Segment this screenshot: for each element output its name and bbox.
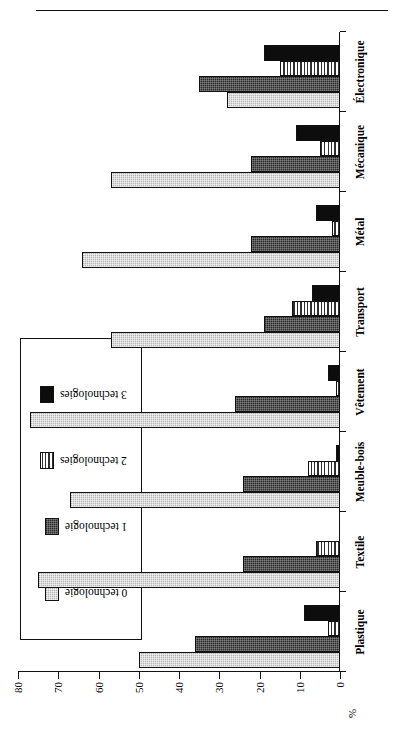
bar-1: [251, 156, 340, 172]
value-axis-tick: [18, 672, 19, 679]
category-axis-tick: [340, 351, 346, 352]
bar-group: Vêtement: [18, 352, 340, 432]
value-axis-tick-label: 60: [93, 682, 104, 712]
bar-3: [264, 45, 340, 61]
category-label: Mécanique: [354, 125, 366, 179]
bar-1: [199, 76, 340, 92]
bar-group: Plastique: [18, 592, 340, 672]
category-axis-tick: [340, 591, 346, 592]
value-axis-tick-label: 70: [53, 682, 64, 712]
value-axis-tick: [58, 672, 59, 679]
bar-group: Textile: [18, 512, 340, 592]
bar-1: [243, 476, 340, 492]
bar-group: Électronique: [18, 32, 340, 112]
category-axis-tick: [340, 31, 346, 32]
bar-1: [235, 396, 340, 412]
bar-3: [316, 205, 340, 221]
bar-2: [336, 381, 340, 397]
bar-2: [328, 621, 340, 637]
bar-2: [332, 221, 340, 237]
figure-stage: 0 technologie 1 technologie 2 technologi…: [0, 16, 398, 736]
category-axis-tick: [340, 111, 346, 112]
value-axis-tick: [260, 672, 261, 679]
category-axis-tick: [340, 511, 346, 512]
category-axis-tick: [340, 191, 346, 192]
bar-0: [111, 172, 340, 188]
rotated-figure-wrapper: 0 technologie 1 technologie 2 technologi…: [0, 16, 398, 736]
bar-3: [296, 125, 340, 141]
bar-1: [195, 636, 340, 652]
value-axis-tick: [300, 672, 301, 679]
bar-2: [316, 541, 340, 557]
bar-0: [70, 492, 340, 508]
bar-3: [328, 365, 340, 381]
bar-0: [139, 652, 340, 668]
value-axis-tick: [139, 672, 140, 679]
bar-1: [251, 236, 340, 252]
value-axis-tick-label: 40: [174, 682, 185, 712]
category-axis-tick: [340, 671, 346, 672]
value-axis-tick: [340, 672, 341, 679]
bar-3: [304, 605, 340, 621]
bar-2: [308, 461, 340, 477]
bar-3: [336, 445, 340, 461]
category-label: Plastique: [354, 609, 366, 654]
bar-group: Métal: [18, 192, 340, 272]
bar-group: Transport: [18, 272, 340, 352]
category-label: Vêtement: [354, 368, 366, 415]
value-axis-tick-label: 80: [13, 682, 24, 712]
value-axis-caption: %: [346, 709, 358, 718]
value-axis-tick-label: 50: [133, 682, 144, 712]
bar-3: [312, 285, 340, 301]
category-axis-tick: [340, 431, 346, 432]
value-axis-tick-label: 30: [214, 682, 225, 712]
bar-group: Mécanique: [18, 112, 340, 192]
value-axis-tick: [179, 672, 180, 679]
bar-1: [243, 556, 340, 572]
value-axis-tick-label: 0: [335, 682, 346, 712]
page-top-rule: [36, 10, 388, 11]
bar-0: [227, 92, 340, 108]
category-label: Électronique: [354, 40, 366, 103]
value-axis-tick-label: 10: [294, 682, 305, 712]
category-label: Meuble-bois: [354, 442, 366, 503]
bar-group: Meuble-bois: [18, 432, 340, 512]
category-label: Transport: [354, 287, 366, 337]
value-axis-tick-label: 20: [254, 682, 265, 712]
bar-0: [111, 332, 340, 348]
value-axis-tick: [99, 672, 100, 679]
bar-0: [38, 572, 340, 588]
category-axis-tick: [340, 271, 346, 272]
bar-2: [280, 61, 340, 77]
plot-area: % 01020304050607080PlastiqueTextileMeubl…: [18, 32, 340, 672]
bar-1: [264, 316, 340, 332]
bar-0: [82, 252, 340, 268]
bar-2: [292, 301, 340, 317]
category-label: Textile: [354, 536, 366, 569]
bar-2: [320, 141, 340, 157]
category-label: Métal: [354, 218, 366, 247]
chart-page: 0 technologie 1 technologie 2 technologi…: [0, 0, 398, 741]
value-axis-tick: [219, 672, 220, 679]
bar-0: [30, 412, 340, 428]
